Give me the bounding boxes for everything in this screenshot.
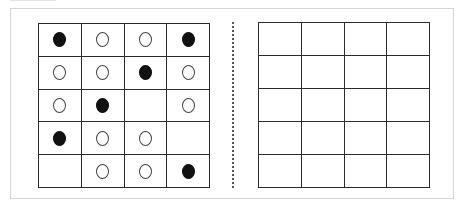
left-grid-cell-r3-c4	[167, 90, 210, 123]
empty-circle-icon	[96, 131, 109, 146]
left-grid-cell-r1-c4	[167, 24, 210, 57]
left-grid-cell-r3-c2	[82, 90, 125, 123]
empty-circle-icon	[182, 65, 195, 80]
right-grid-cell-r3-c3	[345, 89, 388, 122]
right-grid-cell-r2-c1	[259, 56, 302, 89]
left-grid-cell-r4-c1	[39, 122, 82, 155]
left-grid-cell-r2-c3	[125, 57, 168, 90]
left-grid-cell-r4-c2	[82, 122, 125, 155]
right-grid-cell-r1-c4	[387, 23, 430, 56]
left-grid-cell-r4-c3	[125, 122, 168, 155]
left-grid-cell-r3-c3	[125, 90, 168, 123]
filled-circle-icon	[53, 131, 66, 146]
left-grid-cell-r2-c4	[167, 57, 210, 90]
dotted-divider	[232, 22, 234, 188]
left-grid-cell-r5-c1	[39, 155, 82, 188]
empty-circle-icon	[96, 32, 109, 47]
filled-circle-icon	[96, 98, 109, 113]
left-grid-cell-r1-c3	[125, 24, 168, 57]
filled-circle-icon	[182, 164, 195, 179]
filled-circle-icon	[139, 65, 152, 80]
filled-circle-icon	[182, 32, 195, 47]
right-grid-cell-r3-c2	[302, 89, 345, 122]
left-grid-cell-r2-c1	[39, 57, 82, 90]
right-grid-cell-r4-c1	[259, 122, 302, 155]
right-grid-cell-r5-c4	[387, 155, 430, 188]
right-grid-cell-r1-c3	[345, 23, 388, 56]
empty-circle-icon	[139, 164, 152, 179]
empty-circle-icon	[53, 98, 66, 113]
left-grid-cell-r1-c1	[39, 24, 82, 57]
right-grid-cell-r5-c3	[345, 155, 388, 188]
empty-circle-icon	[139, 32, 152, 47]
left-grid-cell-r5-c2	[82, 155, 125, 188]
right-grid-cell-r5-c2	[302, 155, 345, 188]
right-grid-cell-r2-c4	[387, 56, 430, 89]
left-grid-cell-r1-c2	[82, 24, 125, 57]
empty-circle-icon	[96, 164, 109, 179]
left-grid-cell-r5-c4	[167, 155, 210, 188]
left-grid-cell-r4-c4	[167, 122, 210, 155]
right-grid-cell-r3-c1	[259, 89, 302, 122]
top-edge-mark	[10, 0, 56, 1]
right-grid-cell-r2-c2	[302, 56, 345, 89]
left-grid-cell-r2-c2	[82, 57, 125, 90]
right-grid-cell-r1-c1	[259, 23, 302, 56]
left-grid	[38, 23, 210, 188]
right-grid-cell-r4-c2	[302, 122, 345, 155]
right-grid-cell-r1-c2	[302, 23, 345, 56]
filled-circle-icon	[53, 32, 66, 47]
left-grid-cell-r5-c3	[125, 155, 168, 188]
left-grid-cell-r3-c1	[39, 90, 82, 123]
right-grid-cell-r3-c4	[387, 89, 430, 122]
right-grid-cell-r4-c3	[345, 122, 388, 155]
empty-circle-icon	[53, 65, 66, 80]
right-grid	[258, 22, 430, 188]
right-grid-cell-r5-c1	[259, 155, 302, 188]
empty-circle-icon	[139, 131, 152, 146]
right-grid-cell-r2-c3	[345, 56, 388, 89]
empty-circle-icon	[182, 98, 195, 113]
empty-circle-icon	[96, 65, 109, 80]
right-grid-cell-r4-c4	[387, 122, 430, 155]
